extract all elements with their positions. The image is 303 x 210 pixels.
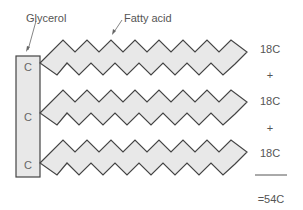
chain-3-length: 18C [250,147,290,159]
total-carbons: =54C [251,193,291,205]
chain-2-length: 18C [250,95,290,107]
chain-1-length: 18C [250,43,290,55]
glycerol-label: Glycerol [26,12,66,24]
glycerol-arrowhead-icon [26,46,30,52]
fatty-acid-label: Fatty acid [124,12,172,24]
fatty-acid-chain-1 [40,40,247,75]
plus-operator-2: + [250,122,290,134]
glycerol-carbon-3: C [16,159,40,171]
triglyceride-diagram: Glycerol Fatty acid C C C 18C + 18C + 18… [0,0,303,210]
glycerol-carbon-2: C [16,111,40,123]
glycerol-carbon-1: C [16,61,40,73]
plus-operator-1: + [250,69,290,81]
glycerol-pointer-line [28,21,36,50]
fatty-acid-chain-3 [40,140,247,175]
fatty-acid-pointer-line [114,20,122,32]
fatty-acid-chain-2 [40,90,247,125]
